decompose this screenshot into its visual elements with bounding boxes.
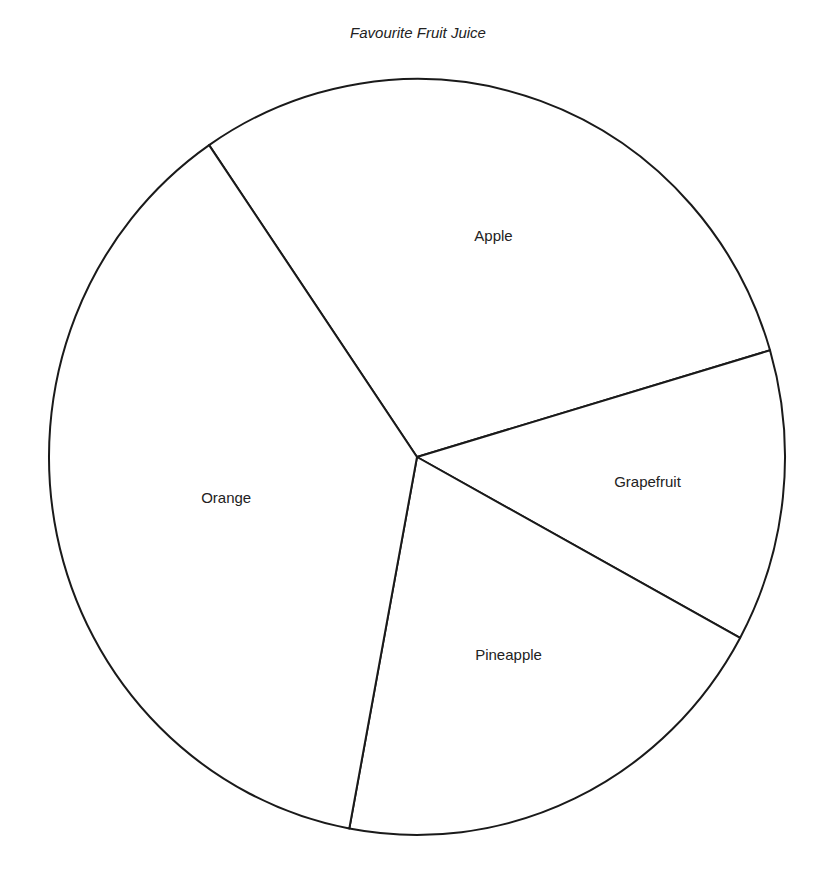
pie-slices (49, 79, 785, 835)
slice-label-apple: Apple (474, 227, 512, 244)
pie-chart: AppleGrapefruitPineappleOrange (0, 0, 824, 880)
slice-label-grapefruit: Grapefruit (614, 473, 682, 490)
slice-label-pineapple: Pineapple (475, 646, 542, 663)
slice-label-orange: Orange (201, 489, 251, 506)
